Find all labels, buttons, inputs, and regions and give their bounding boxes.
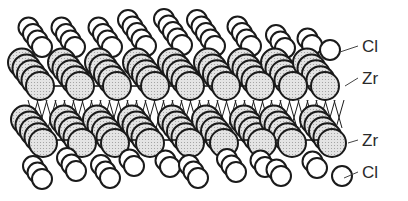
zr-atom	[176, 129, 204, 157]
leader-line	[348, 140, 358, 143]
zr-atom	[103, 72, 131, 100]
zr-atom	[66, 72, 94, 100]
cl-atom	[307, 158, 327, 178]
zr-atom	[176, 72, 204, 100]
zr-atom	[26, 72, 54, 100]
cl-atom	[100, 168, 120, 188]
zr-atom	[279, 72, 307, 100]
label-zr-upper: Zr	[362, 70, 378, 87]
label-leader-lines	[340, 46, 358, 178]
cl-atom	[188, 168, 208, 188]
zr-atom	[141, 72, 169, 100]
cl-atom	[271, 166, 291, 186]
leader-line	[340, 46, 358, 52]
zrcl-structure-diagram	[0, 0, 408, 201]
cl-atom	[32, 37, 52, 57]
leader-line	[345, 78, 358, 86]
cl-atom	[226, 162, 246, 182]
label-cl-bottom: Cl	[362, 164, 378, 181]
zr-atom	[278, 129, 306, 157]
cl-atom	[32, 169, 52, 189]
atom-lattice	[8, 9, 352, 189]
zr-atom	[212, 72, 240, 100]
cl-atom	[160, 157, 180, 177]
cl-atom	[66, 161, 86, 181]
zr-atom	[29, 129, 57, 157]
cl-atom	[320, 40, 340, 60]
cl-atom	[124, 156, 144, 176]
zr-atom	[318, 129, 346, 157]
label-zr-lower: Zr	[362, 132, 378, 149]
label-cl-top: Cl	[362, 38, 378, 55]
zr-atom	[311, 72, 339, 100]
zr-atom	[246, 72, 274, 100]
bond-line	[336, 100, 344, 128]
